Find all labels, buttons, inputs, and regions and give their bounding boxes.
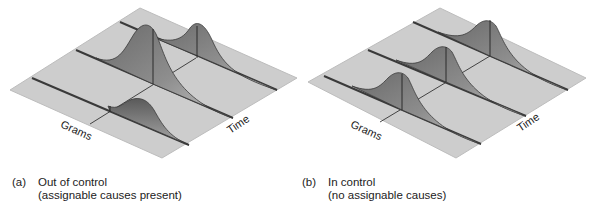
distribution-diagram-b — [298, 0, 595, 170]
caption-subtitle: (no assignable causes) — [302, 189, 446, 202]
caption-a: (a)Out of control (assignable causes pre… — [12, 176, 182, 202]
caption-title: In control — [328, 176, 375, 188]
caption-title: Out of control — [38, 176, 107, 188]
panel-out-of-control: Grams Time (a)Out of control (assignable… — [0, 0, 298, 216]
caption-b: (b)In control (no assignable causes) — [302, 176, 446, 202]
panel-in-control: Grams Time (b)In control (no assignable … — [298, 0, 595, 216]
caption-subtitle: (assignable causes present) — [12, 189, 182, 202]
caption-tag: (a) — [12, 176, 38, 189]
distribution-diagram-a — [0, 0, 298, 170]
caption-tag: (b) — [302, 176, 328, 189]
